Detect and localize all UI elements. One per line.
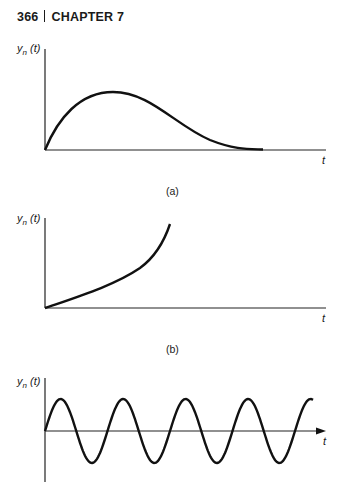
chart-c (45, 378, 326, 482)
chart-c-ylabel: yn (t) (17, 375, 40, 390)
chart-a-caption: (a) (166, 185, 179, 197)
chart-b-caption: (b) (166, 343, 179, 355)
chart-a-xlabel: t (322, 154, 325, 166)
chart-a (45, 49, 326, 150)
chart-b-ylabel: yn (t) (17, 212, 40, 227)
chart-c-axis-arrow-icon (316, 428, 326, 435)
chart-b (45, 218, 326, 308)
chart-b-xlabel: t (322, 312, 325, 324)
chart-b-curve (45, 224, 170, 308)
chart-a-curve (45, 92, 263, 150)
figure-canvas (0, 0, 348, 499)
chart-a-ylabel: yn (t) (17, 42, 40, 57)
chart-c-xlabel: t (323, 435, 326, 447)
